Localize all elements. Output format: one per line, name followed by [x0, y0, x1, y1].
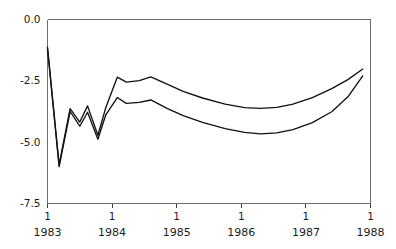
x-axis-tick-label-1: 1 — [109, 210, 116, 222]
x-axis-year-label-1986: 1986 — [227, 226, 255, 239]
x-axis-tick-label-4: 1 — [303, 210, 310, 222]
x-axis-tick-label-2: 1 — [173, 210, 180, 222]
series-line-lower — [48, 48, 363, 166]
x-axis-tick-label-5: 1 — [367, 210, 374, 222]
x-axis-year-label-1984: 1984 — [98, 226, 126, 239]
x-axis-tick-label-3: 1 — [238, 210, 245, 222]
x-axis-year-label-1983: 1983 — [34, 226, 62, 239]
line-chart: 0.0-2.5-5.0-7.51198311984119851198611987… — [0, 0, 396, 249]
y-axis-tick-label-0: 0.0 — [24, 13, 41, 25]
x-axis-year-label-1987: 1987 — [292, 226, 320, 239]
y-axis-tick-label-2: -5.0 — [20, 136, 41, 148]
x-axis-year-label-1988: 1988 — [357, 226, 385, 239]
y-axis-tick-label-3: -7.5 — [20, 197, 41, 209]
series-line-upper — [48, 47, 363, 165]
x-axis-tick-label-0: 1 — [44, 210, 51, 222]
x-axis-year-label-1985: 1985 — [163, 226, 191, 239]
y-axis-tick-label-1: -2.5 — [20, 74, 41, 86]
chart-canvas: 0.0-2.5-5.0-7.51198311984119851198611987… — [0, 0, 396, 249]
